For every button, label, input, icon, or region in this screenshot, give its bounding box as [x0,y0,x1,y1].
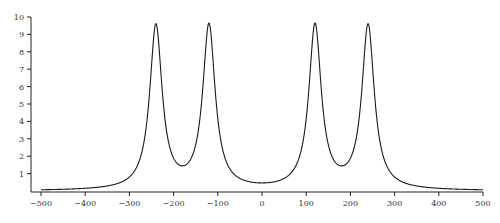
y-tick-label: 5 [19,100,24,109]
x-tick-label: 300 [387,199,402,208]
y-tick-label: 1 [19,170,24,179]
y-tick-label: 7 [19,65,24,74]
y-tick-label: 6 [19,83,24,92]
x-tick-label: −300 [118,199,140,208]
y-tick-label: 8 [19,48,24,57]
y-tick-label: 4 [19,117,24,126]
x-axis-ticks: −500−400−300−200−1000100200300400500 [30,192,491,208]
x-tick-label: 200 [343,199,358,208]
x-tick-label: −100 [207,199,229,208]
x-tick-label: 0 [259,199,264,208]
data-curve [41,23,483,190]
x-tick-label: −200 [163,199,185,208]
y-tick-label: 9 [19,30,24,39]
x-tick-label: −400 [74,199,96,208]
x-tick-label: −500 [30,199,52,208]
axis-lines [31,17,483,192]
y-tick-label: 3 [19,135,24,144]
x-tick-label: 400 [431,199,446,208]
x-tick-label: 100 [299,199,314,208]
axes [31,17,483,192]
x-tick-label: 500 [475,199,490,208]
y-axis-ticks: 12345678910 [14,13,31,179]
lorentzian-line-chart: 12345678910 −500−400−300−200−10001002003… [0,0,500,223]
y-tick-label: 10 [14,13,24,22]
y-tick-label: 2 [19,152,24,161]
